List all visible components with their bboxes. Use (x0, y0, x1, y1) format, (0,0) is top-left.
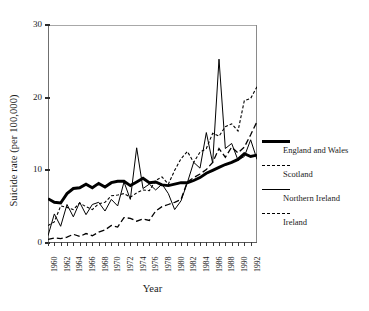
legend-label: England and Wales (283, 146, 348, 155)
y-tick-label: 20 (20, 93, 42, 102)
x-tick-label: 1976 (152, 257, 160, 272)
x-tick-label: 1974 (140, 257, 148, 272)
series-line (48, 122, 257, 240)
x-tick-label: 1964 (76, 257, 84, 272)
legend-entry: Northern Ireland (262, 186, 367, 208)
x-tick-label: 1984 (203, 257, 211, 272)
x-tick-label: 1972 (127, 257, 135, 272)
series-line (48, 154, 257, 203)
legend-entry: England and Wales (262, 138, 367, 160)
chart-figure: Suicide rate (per 100,000) 0102030 19601… (0, 0, 369, 311)
x-tick-label: 1966 (89, 257, 97, 272)
x-tick-label: 1982 (190, 257, 198, 272)
x-tick-label: 1978 (165, 257, 173, 272)
legend-entry: Ireland (262, 210, 367, 232)
y-tick-label: 10 (20, 165, 42, 174)
x-axis-tick-labels: 1960196219641966196819701972197419761978… (48, 246, 263, 278)
x-axis-title: Year (48, 283, 257, 294)
x-tick-label: 1968 (102, 257, 110, 272)
x-tick-label: 1988 (228, 257, 236, 272)
series-line (48, 59, 257, 236)
plot-area (48, 25, 257, 243)
x-tick-label: 1992 (254, 257, 262, 272)
x-tick-label: 1960 (51, 257, 59, 272)
y-axis-title: Suicide rate (per 100,000) (4, 60, 22, 240)
y-axis-title-text: Suicide rate (per 100,000) (8, 94, 19, 206)
legend: England and WalesScotlandNorthern Irelan… (262, 138, 367, 238)
data-series-group (48, 25, 257, 243)
legend-label: Ireland (283, 218, 307, 227)
x-tick-label: 1970 (114, 257, 122, 272)
y-tick-label: 0 (20, 238, 42, 247)
legend-entry: Scotland (262, 162, 367, 184)
x-tick-label: 1962 (64, 257, 72, 272)
y-tick-label: 30 (20, 20, 42, 29)
x-tick-label: 1990 (241, 257, 249, 272)
legend-label: Northern Ireland (283, 194, 340, 203)
x-tick-label: 1980 (178, 257, 186, 272)
x-tick-label: 1986 (216, 257, 224, 272)
legend-label: Scotland (283, 170, 313, 179)
